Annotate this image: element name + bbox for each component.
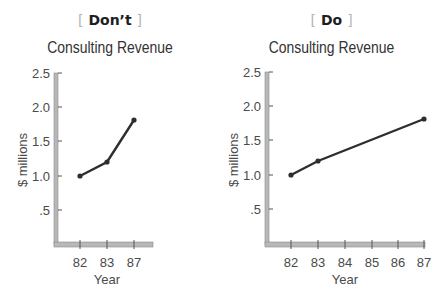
svg-text:83: 83 xyxy=(100,255,114,270)
dont-line-chart: 2.5 2.0 1.5 1.0 .5 82 83 87 Year $ milli… xyxy=(0,0,220,290)
svg-text:1.5: 1.5 xyxy=(243,133,261,148)
svg-text:2.5: 2.5 xyxy=(243,65,261,80)
data-point xyxy=(315,158,320,163)
dont-panel: [Don’t] Consulting Revenue 2.5 2.0 1.5 1… xyxy=(0,0,220,290)
data-point xyxy=(421,116,426,121)
x-axis xyxy=(54,242,153,247)
svg-text:85: 85 xyxy=(365,255,379,270)
data-point xyxy=(77,173,82,178)
revenue-line xyxy=(291,119,424,175)
svg-text:87: 87 xyxy=(127,255,141,270)
revenue-line xyxy=(80,120,134,176)
svg-text:1.5: 1.5 xyxy=(32,134,50,149)
svg-text:82: 82 xyxy=(284,255,298,270)
x-axis-title: Year xyxy=(94,272,121,287)
y-axis-title: $ millions xyxy=(15,132,30,187)
svg-text:86: 86 xyxy=(391,255,405,270)
data-point xyxy=(104,159,109,164)
svg-text:1.0: 1.0 xyxy=(243,168,261,183)
data-point xyxy=(288,172,293,177)
do-panel: [Do] Consulting Revenue 2.5 2.0 1.5 1.0 … xyxy=(220,0,443,290)
svg-text:2.0: 2.0 xyxy=(243,99,261,114)
svg-text:2.5: 2.5 xyxy=(32,66,50,81)
svg-text:87: 87 xyxy=(417,255,431,270)
svg-text:1.0: 1.0 xyxy=(32,169,50,184)
svg-text:83: 83 xyxy=(311,255,325,270)
svg-text:82: 82 xyxy=(73,255,87,270)
svg-text:.5: .5 xyxy=(39,203,50,218)
y-axis xyxy=(54,73,58,245)
y-axis xyxy=(265,72,269,245)
svg-text:2.0: 2.0 xyxy=(32,100,50,115)
data-point xyxy=(131,117,136,122)
do-line-chart: 2.5 2.0 1.5 1.0 .5 82 83 84 85 86 87 Yea… xyxy=(220,0,443,290)
y-axis-title: $ millions xyxy=(226,132,241,187)
svg-text:.5: .5 xyxy=(250,202,261,217)
svg-text:84: 84 xyxy=(338,255,352,270)
x-axis-title: Year xyxy=(332,272,359,287)
